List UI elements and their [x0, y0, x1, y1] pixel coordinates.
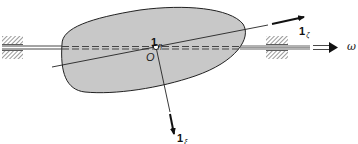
left-bearing: [2, 36, 23, 59]
xi-unit-vector-arrow: [170, 114, 174, 134]
angular-velocity-label: ω: [347, 40, 356, 53]
zeta-subscript: ζ: [306, 31, 309, 38]
eta-base: 1: [151, 36, 157, 48]
zeta-base: 1: [299, 25, 305, 37]
eta-subscript: η: [158, 42, 162, 49]
xi-base: 1: [177, 132, 183, 144]
zeta-unit-vector-label: 1ζ: [299, 22, 309, 38]
eta-unit-vector-label: 1η: [151, 33, 162, 49]
xi-unit-vector-label: 1ξ: [177, 129, 187, 144]
angular-velocity-arrow: [313, 42, 338, 53]
xi-subscript: ξ: [184, 138, 187, 144]
origin-label: O: [146, 51, 155, 63]
